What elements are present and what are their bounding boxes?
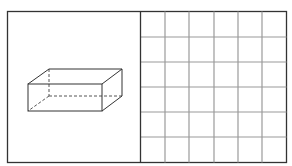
square-grid — [141, 12, 287, 163]
diagram-canvas — [0, 0, 292, 166]
rectangular-prism — [28, 69, 122, 111]
prism-front-face — [28, 84, 102, 111]
prism-hidden-edges — [28, 69, 122, 111]
